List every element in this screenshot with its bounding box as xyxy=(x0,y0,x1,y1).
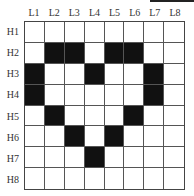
grid-cell-h6-l5 xyxy=(105,126,125,147)
grid-cell-h7-l6 xyxy=(124,147,144,168)
grid-cell-h8-l1 xyxy=(25,168,45,189)
grid-cell-h5-l5 xyxy=(105,106,125,127)
grid-cell-h1-l5 xyxy=(105,22,125,43)
grid-cell-h5-l4 xyxy=(85,106,105,127)
grid-cell-h2-l4 xyxy=(85,43,105,64)
grid-cell-h5-l7 xyxy=(144,106,164,127)
grid-cell-h3-l1 xyxy=(25,64,45,85)
grid-cell-h6-l4 xyxy=(85,126,105,147)
grid-cell-h7-l8 xyxy=(164,147,184,168)
grid-cell-h5-l8 xyxy=(164,106,184,127)
grid-cell-h6-l8 xyxy=(164,126,184,147)
grid-cell-h8-l2 xyxy=(45,168,65,189)
row-label: H8 xyxy=(0,169,22,190)
grid-cell-h2-l2 xyxy=(45,43,65,64)
pixel-grid xyxy=(24,21,185,190)
grid-cell-h8-l8 xyxy=(164,168,184,189)
column-label: L1 xyxy=(24,6,44,20)
grid-cell-h1-l7 xyxy=(144,22,164,43)
grid-cell-h8-l7 xyxy=(144,168,164,189)
grid-cell-h7-l3 xyxy=(65,147,85,168)
grid-cell-h3-l5 xyxy=(105,64,125,85)
grid-cell-h5-l2 xyxy=(45,106,65,127)
row-label: H4 xyxy=(0,84,22,105)
column-label: L8 xyxy=(165,6,185,20)
grid-cell-h7-l4 xyxy=(85,147,105,168)
row-label: H6 xyxy=(0,127,22,148)
column-labels: L1L2L3L4L5L6L7L8 xyxy=(24,6,185,20)
column-label: L7 xyxy=(145,6,165,20)
grid-cell-h3-l2 xyxy=(45,64,65,85)
grid-cell-h5-l1 xyxy=(25,106,45,127)
grid-cell-h5-l6 xyxy=(124,106,144,127)
grid-cell-h6-l2 xyxy=(45,126,65,147)
grid-cell-h4-l8 xyxy=(164,85,184,106)
grid-cell-h2-l8 xyxy=(164,43,184,64)
grid-cell-h7-l7 xyxy=(144,147,164,168)
grid-cell-h3-l8 xyxy=(164,64,184,85)
grid-cell-h2-l5 xyxy=(105,43,125,64)
row-label: H7 xyxy=(0,148,22,169)
column-label: L3 xyxy=(64,6,84,20)
grid-cell-h4-l3 xyxy=(65,85,85,106)
grid-cell-h3-l6 xyxy=(124,64,144,85)
grid-cell-h7-l1 xyxy=(25,147,45,168)
row-label: H1 xyxy=(0,21,22,42)
grid-cell-h1-l4 xyxy=(85,22,105,43)
grid-cell-h2-l1 xyxy=(25,43,45,64)
grid-cell-h4-l1 xyxy=(25,85,45,106)
grid-cell-h6-l6 xyxy=(124,126,144,147)
grid-cell-h7-l5 xyxy=(105,147,125,168)
grid-cell-h7-l2 xyxy=(45,147,65,168)
grid-cell-h4-l4 xyxy=(85,85,105,106)
grid-cell-h1-l1 xyxy=(25,22,45,43)
row-label: H2 xyxy=(0,42,22,63)
grid-cell-h8-l5 xyxy=(105,168,125,189)
grid-cell-h8-l6 xyxy=(124,168,144,189)
grid-cell-h3-l4 xyxy=(85,64,105,85)
grid-cell-h4-l7 xyxy=(144,85,164,106)
grid-cell-h5-l3 xyxy=(65,106,85,127)
grid-cell-h8-l3 xyxy=(65,168,85,189)
row-labels: H1H2H3H4H5H6H7H8 xyxy=(0,21,22,190)
column-label: L2 xyxy=(44,6,64,20)
grid-cell-h6-l1 xyxy=(25,126,45,147)
grid-cell-h3-l7 xyxy=(144,64,164,85)
grid-cell-h6-l7 xyxy=(144,126,164,147)
grid-cell-h1-l8 xyxy=(164,22,184,43)
column-label: L6 xyxy=(125,6,145,20)
grid-cell-h4-l6 xyxy=(124,85,144,106)
column-label: L5 xyxy=(105,6,125,20)
grid-cell-h4-l2 xyxy=(45,85,65,106)
grid-cell-h4-l5 xyxy=(105,85,125,106)
grid-cell-h8-l4 xyxy=(85,168,105,189)
grid-cell-h2-l3 xyxy=(65,43,85,64)
row-label: H5 xyxy=(0,106,22,127)
grid-cell-h3-l3 xyxy=(65,64,85,85)
column-label: L4 xyxy=(84,6,104,20)
grid-cell-h1-l6 xyxy=(124,22,144,43)
row-label: H3 xyxy=(0,63,22,84)
grid-cell-h1-l3 xyxy=(65,22,85,43)
grid-cell-h1-l2 xyxy=(45,22,65,43)
grid-cell-h2-l6 xyxy=(124,43,144,64)
grid-cell-h2-l7 xyxy=(144,43,164,64)
grid-cell-h6-l3 xyxy=(65,126,85,147)
top-border-fragment xyxy=(150,0,194,2)
